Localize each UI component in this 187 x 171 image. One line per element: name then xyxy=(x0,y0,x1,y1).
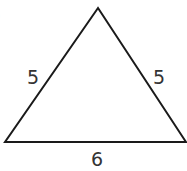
clipped-fragment: ) xyxy=(0,5,1,26)
base-label: 6 xyxy=(91,148,103,170)
triangle-svg: ) 5 5 6 xyxy=(0,0,187,171)
triangle-diagram: ) 5 5 6 xyxy=(0,0,187,171)
right-side-label: 5 xyxy=(153,66,165,88)
left-side-label: 5 xyxy=(27,66,39,88)
